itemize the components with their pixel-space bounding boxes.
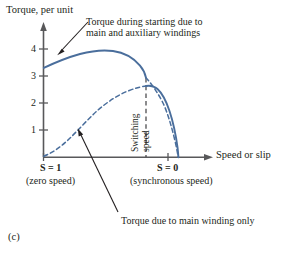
switching-speed-label-line2: speed [141,130,152,152]
y-axis-label: Torque, per unit [6,4,73,16]
x-endpoint-sublabel-synchronous-speed: (synchronous speed) [130,175,212,186]
x-endpoint-label-s0: S = 0 [157,162,178,173]
x-endpoint-sublabel-zero-speed: (zero speed) [26,175,75,186]
y-tick-label-3: 3 [24,70,36,81]
curve-main-auxiliary-solid [44,51,146,78]
y-tick-label-1: 1 [24,124,36,135]
annotation-main-auxiliary: Torque during starting due to main and a… [86,16,203,38]
switching-speed-label-line1: Switching [130,113,141,152]
y-tick-label-4: 4 [24,43,36,54]
panel-label: (c) [8,231,20,243]
x-axis-label: Speed or slip [216,149,271,161]
leader-arrow-top [57,22,88,55]
leader-arrow-bottom [78,128,118,212]
x-axis-arrowhead [204,154,213,161]
annotation-main-winding: Torque due to main winding only [121,215,254,226]
y-axis-arrowhead [40,22,47,31]
x-endpoint-label-s1: S = 1 [40,162,61,173]
y-tick-label-2: 2 [24,97,36,108]
